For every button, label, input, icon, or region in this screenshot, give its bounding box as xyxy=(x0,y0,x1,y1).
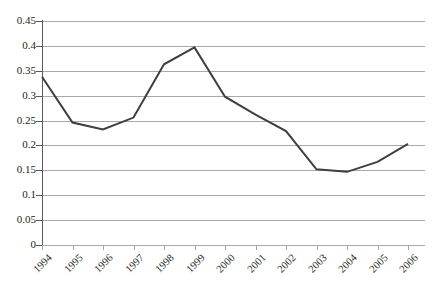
line-chart: 0.450.40.350.30.250.20.150.10.050 199419… xyxy=(0,0,442,288)
plot-area: 0.450.40.350.30.250.20.150.10.050 199419… xyxy=(0,0,442,288)
data-line-series xyxy=(42,47,408,171)
data-series-layer xyxy=(0,0,442,288)
